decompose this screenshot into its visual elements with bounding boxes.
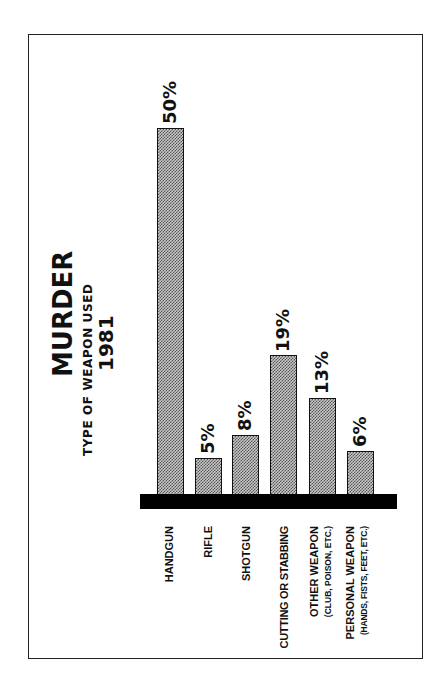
category-handgun: HANDGUN [163,526,177,666]
value-label-handgun: 50% [161,81,179,124]
chart-year: 1981 [96,315,116,371]
value-label-personal-weapon: 6% [351,416,369,447]
value-label-rifle: 5% [199,423,217,454]
category-sublabel: (HANDS, FISTS, FEET, ETC.) [359,526,369,635]
category-label: HANDGUN [163,526,175,582]
category-other-weapon-sub: (CLUB, POISON, ETC.) [323,526,335,666]
category-sublabel: (CLUB, POISON, ETC.) [323,526,333,617]
category-personal-weapon: PERSONAL WEAPON [344,526,358,666]
bar-rifle [195,458,222,495]
category-label: RIFLE [202,526,214,558]
category-cutting-stabbing: CUTTING OR STABBING [278,526,292,666]
chart-title: MURDER [50,251,76,377]
category-rifle: RIFLE [202,526,216,666]
category-label: SHOTGUN [240,526,252,581]
bar-personal-weapon [347,451,374,495]
value-label-other-weapon: 13% [313,351,331,394]
bar-other-weapon [309,398,336,495]
category-label: CUTTING OR STABBING [278,526,290,648]
category-label: OTHER WEAPON [308,526,320,617]
value-label-shotgun: 8% [236,400,254,431]
category-other-weapon: OTHER WEAPON [308,526,322,666]
bar-shotgun [232,435,259,495]
chart-subtitle: TYPE OF WEAPON USED [82,283,94,456]
category-personal-weapon-sub: (HANDS, FISTS, FEET, ETC.) [359,526,371,666]
bar-handgun [157,128,184,495]
category-label: PERSONAL WEAPON [344,526,356,639]
bar-cutting-stabbing [270,355,297,495]
category-shotgun: SHOTGUN [240,526,254,666]
value-label-cutting-stabbing: 19% [274,309,292,352]
chart-baseline [140,494,397,509]
